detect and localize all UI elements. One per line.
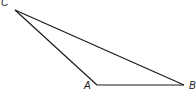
vertex-label-a: A (84, 81, 91, 91)
vertex-label-b: B (189, 81, 196, 91)
edge-ca (15, 10, 97, 85)
triangle-diagram (0, 0, 196, 94)
edge-cb (15, 10, 184, 85)
vertex-label-c: C (1, 0, 8, 8)
